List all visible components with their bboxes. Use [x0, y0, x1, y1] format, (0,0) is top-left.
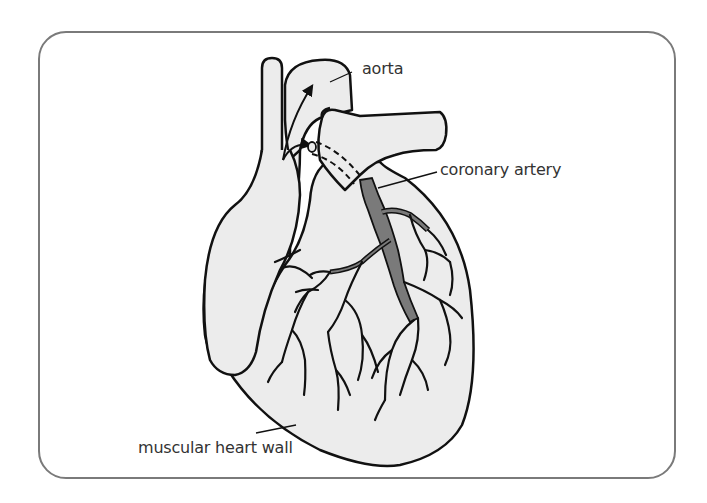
label-muscular-heart-wall: muscular heart wall [138, 438, 293, 457]
label-aorta: aorta [362, 59, 403, 78]
heart-diagram [0, 0, 707, 503]
label-coronary-artery: coronary artery [440, 160, 561, 179]
heart-body [204, 150, 474, 466]
